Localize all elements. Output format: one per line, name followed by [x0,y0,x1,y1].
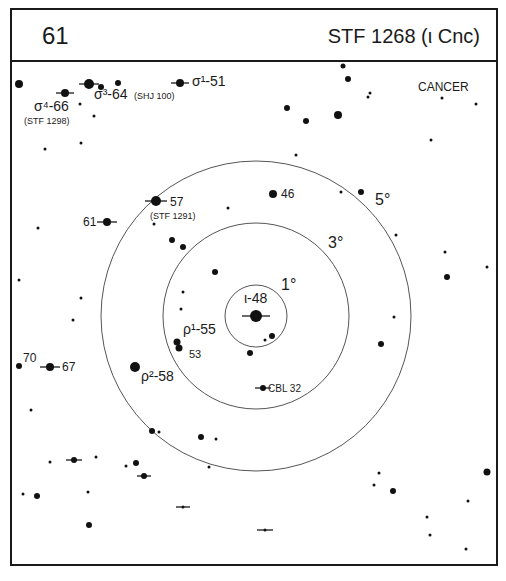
star [484,469,491,476]
star-label: 53 [189,348,201,360]
star [80,142,83,145]
star [378,472,381,475]
star [61,89,69,97]
star-label: (STF 1291) [150,211,196,221]
star [198,434,204,440]
star [84,79,94,89]
star [169,237,175,243]
star [269,190,277,198]
star-label: (STF 1298) [24,116,70,126]
ring-label: 5° [375,191,390,208]
star [125,465,128,468]
star [149,428,155,434]
star-label: 67 [62,360,76,374]
star-label: σ¹-51 [192,73,226,89]
star [467,500,470,503]
star [212,269,218,275]
star [264,339,267,342]
star [393,316,396,319]
star [367,96,370,99]
star-label: 70 [23,351,37,365]
star [284,105,290,111]
star [227,207,230,210]
constellation-label: CANCER [418,80,469,94]
star [141,473,147,479]
star [215,438,218,441]
star [486,266,489,269]
star-labels: ι-48σ¹-51σ³-64(SHJ 100)σ⁴-66(STF 1298)57… [23,73,301,394]
star [86,522,92,528]
star [30,409,33,412]
star [79,103,82,106]
star [340,191,343,194]
star [378,341,384,347]
star [95,456,98,459]
star [465,548,468,551]
star [49,461,52,464]
star [390,488,396,494]
star [369,92,372,95]
star [22,493,25,496]
star [158,431,161,434]
star [208,466,211,469]
star [475,103,478,106]
star [46,363,54,371]
star [174,339,181,346]
star [44,148,47,151]
star [444,251,447,254]
star [429,534,432,537]
star [34,493,40,499]
star [71,457,77,463]
star-label: (SHJ 100) [134,91,175,101]
star [430,139,433,142]
star-label: 61 [83,215,97,229]
star [15,80,23,88]
star-markers [15,64,491,551]
star [16,363,22,369]
star [130,362,140,372]
star [395,234,398,237]
star-field-map: 1°3°5° ι-48σ¹-51σ³-64(SHJ 100)σ⁴-66(STF … [0,0,506,581]
star [269,333,275,339]
star-label: σ⁴-66 [34,98,69,114]
star-label: ρ²-58 [141,368,174,384]
star [444,274,450,280]
star-label: CBL 32 [268,383,301,394]
star-label: ρ¹-55 [183,321,216,337]
star [182,506,185,509]
star [250,310,262,322]
star [72,319,75,322]
star [358,189,364,195]
star [87,491,90,494]
star [93,115,96,118]
star-label: 57 [170,195,184,209]
star [133,460,139,466]
star [80,297,83,300]
star [103,218,111,226]
star-label: ι-48 [244,290,268,306]
star [180,308,183,311]
star [182,291,185,294]
star [295,154,298,157]
star [247,350,253,356]
star [18,279,21,282]
star [345,76,351,82]
star [373,484,376,487]
star-label: 46 [281,187,295,201]
star [180,244,186,250]
ring-label: 1° [281,276,296,293]
star [441,97,444,100]
star [176,79,184,87]
star [426,516,429,519]
star-label: σ³-64 [94,86,128,102]
ring-label: 3° [328,234,343,251]
star [334,111,342,119]
star [341,64,346,69]
star [176,345,183,352]
star [37,227,40,230]
star [151,196,161,206]
star [264,529,267,532]
star [153,223,156,226]
star [303,118,309,124]
star [260,385,266,391]
